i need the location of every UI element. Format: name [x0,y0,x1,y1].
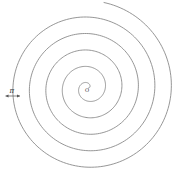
spiral-diagram: π O [0,0,172,184]
spiral-curve [13,2,171,167]
spacing-marker: π [6,87,21,98]
spacing-label: π [9,87,15,95]
center-label: O [85,87,89,93]
